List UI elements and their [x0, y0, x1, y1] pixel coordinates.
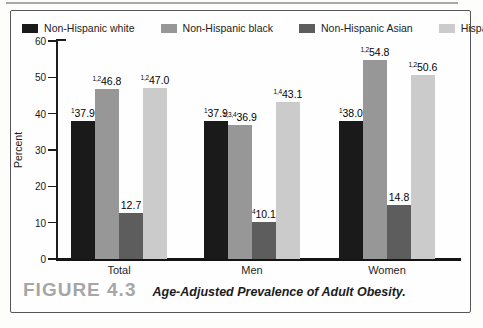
y-axis-tick: [48, 186, 56, 188]
bar-value-label: 1,254.8: [361, 46, 390, 58]
y-axis-tick-label: 50: [20, 72, 46, 83]
x-axis-category-label: Total: [107, 264, 130, 276]
legend-label: Non-Hispanic black: [183, 22, 273, 34]
bar-value-label: 1,250.6: [409, 61, 438, 73]
legend-swatch-icon: [161, 24, 177, 33]
legend-item: Hispanic: [439, 22, 483, 34]
bar-non-hispanic-white-women: [339, 121, 363, 259]
bar-value-label: 138.0: [339, 107, 363, 119]
bar-value-label: 1,443.1: [274, 88, 303, 100]
legend-swatch-icon: [22, 24, 38, 33]
bar-non-hispanic-black-total: [95, 89, 119, 259]
bar-value-label: 12.7: [121, 199, 141, 211]
bar-non-hispanic-white-men: [204, 121, 228, 259]
legend-swatch-icon: [299, 24, 315, 33]
y-axis-tick-label: 60: [20, 36, 46, 47]
figure-box: Non-Hispanic whiteNon-Hispanic blackNon-…: [10, 10, 471, 313]
plot-area: Percent 0102030405060137.91,246.812.71,2…: [56, 41, 461, 259]
bar-value-label: 1,246.8: [93, 75, 122, 87]
x-axis-category-label: Men: [241, 264, 262, 276]
y-axis-tick-label: 30: [20, 145, 46, 156]
chart-legend: Non-Hispanic whiteNon-Hispanic blackNon-…: [59, 22, 464, 34]
bar-non-hispanic-white-total: [71, 121, 95, 259]
bar-value-label: 1,247.0: [141, 74, 170, 86]
y-axis-tick: [48, 149, 56, 151]
legend-label: Hispanic: [461, 22, 483, 34]
bar-hispanic-total: [143, 88, 167, 259]
y-axis-tick-label: 20: [20, 181, 46, 192]
y-axis-line: [56, 39, 58, 259]
y-axis-tick: [48, 222, 56, 224]
bar-non-hispanic-asian-men: [252, 222, 276, 259]
figure-caption-row: FIGURE 4.3 Age-Adjusted Prevalence of Ad…: [23, 279, 406, 301]
y-axis-tick-label: 40: [20, 109, 46, 120]
y-axis-tick: [48, 77, 56, 79]
bar-value-label: 410.1: [252, 208, 276, 220]
bar-value-label: 1,3,436.9: [223, 111, 257, 123]
legend-item: Non-Hispanic Asian: [299, 22, 413, 34]
y-axis-tick-label: 0: [20, 254, 46, 265]
y-axis-top-cap: [56, 39, 66, 41]
figure-number: FIGURE 4.3: [23, 279, 136, 301]
bar-value-label: 14.8: [389, 191, 409, 203]
legend-swatch-icon: [439, 24, 455, 33]
bar-non-hispanic-asian-total: [119, 213, 143, 259]
bar-non-hispanic-black-men: [228, 125, 252, 259]
legend-item: Non-Hispanic white: [22, 22, 134, 34]
legend-label: Non-Hispanic Asian: [321, 22, 413, 34]
bar-non-hispanic-black-women: [363, 60, 387, 259]
x-axis-category-label: Women: [368, 264, 406, 276]
bar-non-hispanic-asian-women: [387, 205, 411, 259]
page-top-rule: [6, 2, 458, 4]
y-axis-tick-label: 10: [20, 218, 46, 229]
y-axis-tick: [48, 113, 56, 115]
figure-page: Non-Hispanic whiteNon-Hispanic blackNon-…: [0, 0, 483, 328]
legend-label: Non-Hispanic white: [44, 22, 134, 34]
bar-hispanic-women: [411, 75, 435, 259]
figure-caption-text: Age-Adjusted Prevalence of Adult Obesity…: [152, 285, 405, 299]
bar-value-label: 137.9: [71, 107, 95, 119]
legend-item: Non-Hispanic black: [161, 22, 273, 34]
y-axis-tick: [48, 40, 56, 42]
bar-hispanic-men: [276, 102, 300, 259]
y-axis-tick: [48, 258, 56, 260]
